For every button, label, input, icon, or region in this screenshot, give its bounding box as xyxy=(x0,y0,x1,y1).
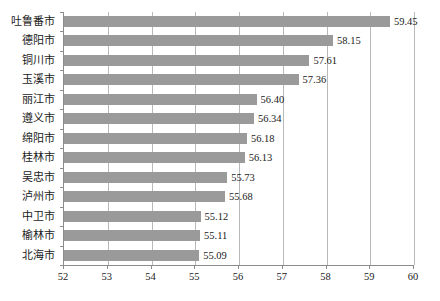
bar xyxy=(64,94,257,105)
bar xyxy=(64,250,199,261)
x-axis-tick-label: 55 xyxy=(189,271,200,282)
bar xyxy=(64,191,225,202)
category-label: 北海市 xyxy=(22,246,55,265)
bar-value-label: 56.34 xyxy=(254,109,282,128)
x-axis-tick xyxy=(238,265,239,269)
category-label: 德阳市 xyxy=(22,31,55,50)
x-axis-tick-label: 54 xyxy=(145,271,156,282)
bar-row: 55.68 xyxy=(64,187,413,206)
bar xyxy=(64,55,309,66)
bar-row: 59.45 xyxy=(64,12,413,31)
bar-row: 55.12 xyxy=(64,207,413,226)
category-label: 丽江市 xyxy=(22,90,55,109)
x-axis-tick-label: 56 xyxy=(233,271,244,282)
x-axis-tick xyxy=(194,265,195,269)
x-axis-tick-label: 58 xyxy=(320,271,331,282)
category-label: 吴忠市 xyxy=(22,168,55,187)
bar xyxy=(64,211,201,222)
bar-row: 58.15 xyxy=(64,31,413,50)
bar-value-label: 55.11 xyxy=(200,226,227,245)
bar xyxy=(64,74,299,85)
y-axis-tick xyxy=(60,12,64,13)
bar-value-label: 56.18 xyxy=(247,129,275,148)
bar-value-label: 56.40 xyxy=(257,90,285,109)
bar-value-label: 55.68 xyxy=(225,187,253,206)
x-axis-tick xyxy=(282,265,283,269)
category-label: 榆林市 xyxy=(22,226,55,245)
bar-row: 55.09 xyxy=(64,246,413,265)
category-label: 泸州市 xyxy=(22,187,55,206)
bar-value-label: 55.73 xyxy=(227,168,255,187)
plot-area: 59.4558.1557.6157.3656.4056.3456.1856.13… xyxy=(63,12,413,265)
x-axis-tick xyxy=(107,265,108,269)
bar-value-label: 55.12 xyxy=(201,207,229,226)
category-label: 玉溪市 xyxy=(22,70,55,89)
x-axis-tick xyxy=(326,265,327,269)
bar xyxy=(64,230,200,241)
x-axis-tick-label: 57 xyxy=(277,271,288,282)
x-axis-tick xyxy=(63,265,64,269)
bar xyxy=(64,113,254,124)
category-axis: 吐鲁番市德阳市铜川市玉溪市丽江市遵义市绵阳市桂林市吴忠市泸州市中卫市榆林市北海市 xyxy=(0,12,59,265)
category-label: 桂林市 xyxy=(22,148,55,167)
category-label: 中卫市 xyxy=(22,207,55,226)
x-axis-tick xyxy=(369,265,370,269)
bar-value-label: 57.36 xyxy=(299,70,327,89)
bar-row: 56.13 xyxy=(64,148,413,167)
category-label: 绵阳市 xyxy=(22,129,55,148)
x-axis-tick xyxy=(151,265,152,269)
bar xyxy=(64,35,333,46)
x-axis-tick-label: 53 xyxy=(102,271,113,282)
bar-value-label: 56.13 xyxy=(245,148,273,167)
bar xyxy=(64,133,247,144)
category-label: 吐鲁番市 xyxy=(11,12,55,31)
bar-row: 56.18 xyxy=(64,129,413,148)
bar-row: 56.34 xyxy=(64,109,413,128)
bar-value-label: 57.61 xyxy=(309,51,337,70)
bar xyxy=(64,16,390,27)
bar-value-label: 55.09 xyxy=(199,246,227,265)
bar xyxy=(64,172,227,183)
bar-row: 57.36 xyxy=(64,70,413,89)
bar-row: 57.61 xyxy=(64,51,413,70)
bar-value-label: 58.15 xyxy=(333,31,361,50)
bar-row: 55.73 xyxy=(64,168,413,187)
bar xyxy=(64,152,245,163)
category-label: 遵义市 xyxy=(22,109,55,128)
bar-row: 56.40 xyxy=(64,90,413,109)
category-label: 铜川市 xyxy=(22,51,55,70)
bar-row: 55.11 xyxy=(64,226,413,245)
x-axis-tick xyxy=(413,265,414,269)
horizontal-bar-chart: 吐鲁番市德阳市铜川市玉溪市丽江市遵义市绵阳市桂林市吴忠市泸州市中卫市榆林市北海市… xyxy=(0,0,440,301)
bar-value-label: 59.45 xyxy=(390,12,418,31)
gridline xyxy=(414,12,415,265)
x-axis-tick-label: 60 xyxy=(408,271,419,282)
x-axis-tick-label: 59 xyxy=(364,271,375,282)
value-axis: 525354555657585960 xyxy=(63,265,413,301)
x-axis-tick-label: 52 xyxy=(58,271,69,282)
